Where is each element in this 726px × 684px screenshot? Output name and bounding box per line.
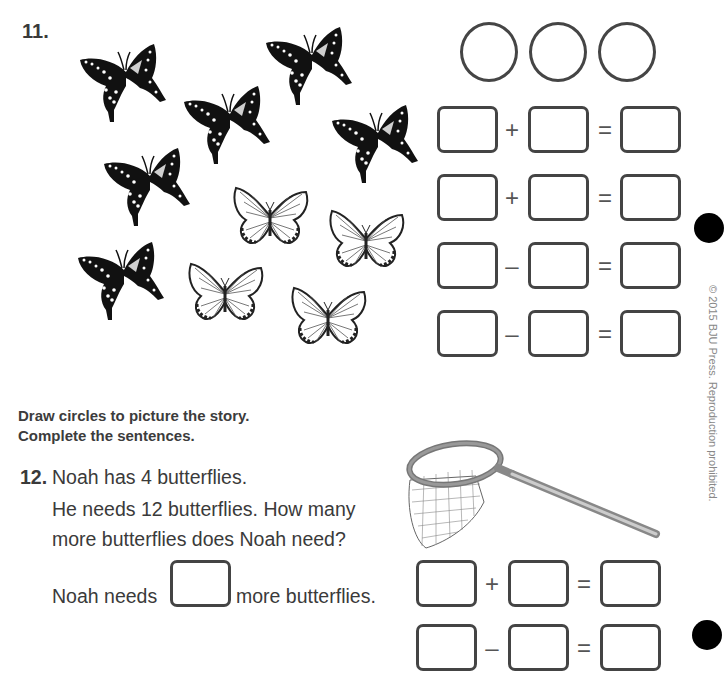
answer-box[interactable] bbox=[170, 560, 231, 607]
light-butterfly-icon bbox=[288, 280, 372, 352]
answer-box[interactable] bbox=[437, 106, 498, 153]
equals-sign: = bbox=[595, 118, 615, 142]
butterfly-net-icon bbox=[400, 440, 670, 555]
answer-box[interactable] bbox=[620, 106, 681, 153]
answer-box[interactable] bbox=[600, 560, 661, 607]
problem-12-number: 12. bbox=[20, 466, 47, 489]
story-line-1: Noah has 4 butterflies. bbox=[52, 466, 247, 489]
problem-11-number: 11. bbox=[22, 20, 49, 43]
equals-sign: = bbox=[595, 186, 615, 210]
light-butterfly-icon bbox=[185, 256, 269, 328]
answer-box[interactable] bbox=[416, 624, 477, 671]
answer-box[interactable] bbox=[437, 174, 498, 221]
dark-butterfly-icon bbox=[74, 240, 166, 324]
equals-sign: = bbox=[595, 322, 615, 346]
story-line-3: more butterflies does Noah need? bbox=[52, 528, 346, 551]
answer-box[interactable] bbox=[416, 560, 477, 607]
answer-box[interactable] bbox=[508, 560, 569, 607]
equals-sign: = bbox=[574, 572, 594, 596]
dark-butterfly-icon bbox=[100, 146, 192, 230]
answer-box[interactable] bbox=[620, 242, 681, 289]
answer-box[interactable] bbox=[528, 242, 589, 289]
minus-sign: – bbox=[502, 254, 522, 278]
plus-sign: + bbox=[502, 186, 522, 210]
answer-circle[interactable] bbox=[460, 22, 518, 82]
answer-suffix: more butterflies. bbox=[236, 585, 376, 608]
binder-hole-icon bbox=[692, 620, 722, 650]
answer-circle[interactable] bbox=[598, 22, 656, 82]
answer-box[interactable] bbox=[508, 624, 569, 671]
answer-box[interactable] bbox=[620, 310, 681, 357]
copyright-notice: © 2015 BJU Press. Reproduction prohibite… bbox=[707, 285, 719, 502]
minus-sign: – bbox=[482, 636, 502, 660]
binder-hole-icon bbox=[694, 213, 724, 243]
answer-prefix: Noah needs bbox=[52, 585, 157, 608]
answer-box[interactable] bbox=[437, 242, 498, 289]
instruction-line-1: Draw circles to picture the story. bbox=[18, 407, 249, 424]
answer-box[interactable] bbox=[620, 174, 681, 221]
dark-butterfly-icon bbox=[76, 42, 168, 126]
answer-box[interactable] bbox=[528, 106, 589, 153]
instruction-line-2: Complete the sentences. bbox=[18, 427, 195, 444]
story-line-2: He needs 12 butterflies. How many bbox=[52, 498, 356, 521]
dark-butterfly-icon bbox=[328, 103, 420, 187]
plus-sign: + bbox=[482, 572, 502, 596]
equals-sign: = bbox=[595, 254, 615, 278]
light-butterfly-icon bbox=[230, 180, 314, 252]
answer-box[interactable] bbox=[528, 310, 589, 357]
dark-butterfly-icon bbox=[180, 84, 272, 168]
plus-sign: + bbox=[502, 118, 522, 142]
answer-box[interactable] bbox=[600, 624, 661, 671]
minus-sign: – bbox=[502, 322, 522, 346]
equals-sign: = bbox=[574, 636, 594, 660]
dark-butterfly-icon bbox=[262, 25, 354, 109]
answer-box[interactable] bbox=[437, 310, 498, 357]
light-butterfly-icon bbox=[326, 203, 410, 275]
answer-box[interactable] bbox=[528, 174, 589, 221]
answer-circle[interactable] bbox=[529, 22, 587, 82]
